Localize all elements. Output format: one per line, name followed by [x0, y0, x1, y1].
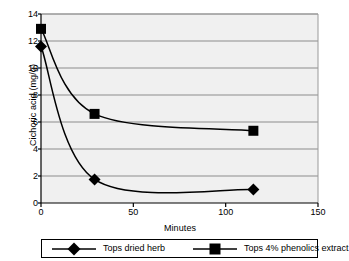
- legend-label: Tops dried herb: [103, 244, 165, 253]
- x-tick-label: 50: [118, 208, 148, 217]
- x-axis-title: Minutes: [41, 223, 319, 233]
- x-tick-label: 0: [26, 208, 56, 217]
- legend-label: Tops 4% phenolics extract: [244, 244, 349, 253]
- legend-item-tops-4pct-phenolics-extract: Tops 4% phenolics extract: [191, 240, 349, 257]
- x-axis-tick-labels: 050100150: [0, 208, 335, 220]
- chart-legend: Tops dried herb Tops 4% phenolics extrac…: [41, 239, 318, 258]
- x-tick-label: 100: [211, 208, 241, 217]
- square-marker-icon: [191, 241, 239, 257]
- x-tick-label: 150: [303, 208, 333, 217]
- plot-background: [41, 14, 318, 203]
- legend-item-tops-dried-herb: Tops dried herb: [50, 240, 165, 257]
- x-axis-ticks: [41, 203, 318, 207]
- square-marker: [90, 109, 100, 119]
- square-marker: [248, 126, 258, 136]
- square-marker: [36, 24, 46, 34]
- diamond-marker-icon: [50, 241, 98, 257]
